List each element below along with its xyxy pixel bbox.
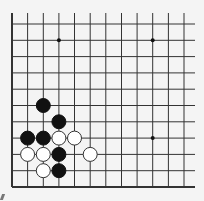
- white-stone[interactable]: [52, 131, 66, 145]
- white-stone[interactable]: [68, 131, 82, 145]
- white-stone[interactable]: [36, 147, 50, 161]
- black-stone[interactable]: [52, 115, 66, 129]
- black-stone[interactable]: [36, 131, 50, 145]
- white-stone[interactable]: [36, 164, 50, 178]
- black-stone[interactable]: [21, 131, 35, 145]
- black-stone[interactable]: [52, 164, 66, 178]
- white-stone[interactable]: [83, 147, 97, 161]
- star-point: [151, 38, 155, 42]
- star-point: [57, 38, 61, 42]
- white-stone[interactable]: [21, 147, 35, 161]
- black-stone[interactable]: [52, 147, 66, 161]
- black-stone[interactable]: [36, 99, 50, 113]
- star-point: [151, 136, 155, 140]
- go-board[interactable]: [0, 0, 204, 201]
